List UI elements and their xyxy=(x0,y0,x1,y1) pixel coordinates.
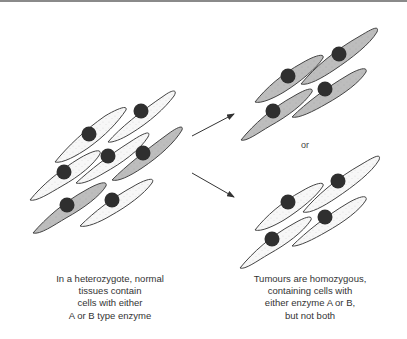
nucleus-icon xyxy=(57,165,72,180)
arrow-to-top-tumour xyxy=(192,114,234,136)
nucleus-icon xyxy=(318,210,333,225)
nucleus-icon xyxy=(136,146,151,161)
nucleus-icon xyxy=(134,104,149,119)
nucleus-icon xyxy=(318,82,333,97)
caption-right: Tumours are homozygous, containing cells… xyxy=(240,273,380,322)
nucleus-icon xyxy=(60,198,75,213)
nucleus-icon xyxy=(82,127,97,142)
caption-line: tissues contain xyxy=(40,285,180,297)
cell-light xyxy=(303,156,380,212)
caption-line: Tumours are homozygous, xyxy=(240,273,380,285)
nucleus-icon xyxy=(105,193,120,208)
tumour-group-light xyxy=(240,156,380,268)
cell-light xyxy=(80,179,153,226)
caption-line: cells with either xyxy=(40,297,180,309)
caption-line: A or B type enzyme xyxy=(40,310,180,322)
nucleus-icon xyxy=(101,149,116,164)
nucleus-icon xyxy=(281,69,296,84)
nucleus-icon xyxy=(266,104,281,119)
nucleus-icon xyxy=(332,47,347,62)
cell-shaded xyxy=(301,28,378,84)
left-tissue-group xyxy=(30,91,182,233)
arrow-to-bottom-tumour xyxy=(192,173,234,197)
nucleus-icon xyxy=(281,195,296,210)
caption-line: containing cells with xyxy=(240,285,380,297)
caption-left: In a heterozygote, normal tissues contai… xyxy=(40,273,180,322)
nucleus-icon xyxy=(265,232,280,247)
tumour-group-shaded xyxy=(241,28,378,140)
caption-line: but not both xyxy=(240,310,380,322)
or-label: or xyxy=(301,140,309,150)
caption-line: either enzyme A or B, xyxy=(240,297,380,309)
caption-line: In a heterozygote, normal xyxy=(40,273,180,285)
nucleus-icon xyxy=(331,174,346,189)
